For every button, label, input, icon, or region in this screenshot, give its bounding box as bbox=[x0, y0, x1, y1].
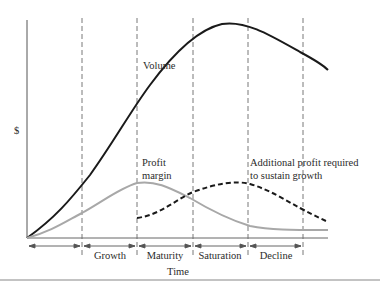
volume-label: Volume bbox=[143, 60, 176, 71]
phase-label-saturation: Saturation bbox=[198, 250, 242, 261]
profit-margin-curve bbox=[27, 182, 328, 238]
phase-label-growth: Growth bbox=[94, 250, 127, 261]
x-axis-label: Time bbox=[167, 266, 189, 277]
phase-label-decline: Decline bbox=[260, 250, 293, 261]
additional-profit-label-line2: to sustain growth bbox=[250, 170, 323, 181]
additional-profit-curve bbox=[137, 182, 328, 222]
profit-margin-label-line1: Profit bbox=[142, 157, 166, 168]
profit-margin-label-line2: margin bbox=[142, 170, 172, 181]
additional-profit-label-line1: Additional profit required bbox=[250, 157, 359, 168]
phase-label-maturity: Maturity bbox=[147, 250, 184, 261]
y-axis-label: $ bbox=[14, 125, 19, 136]
product-life-cycle-chart: $ Volume Profit margin Additional profit… bbox=[0, 0, 380, 284]
phase-arrows bbox=[29, 244, 301, 248]
volume-curve bbox=[27, 23, 328, 238]
